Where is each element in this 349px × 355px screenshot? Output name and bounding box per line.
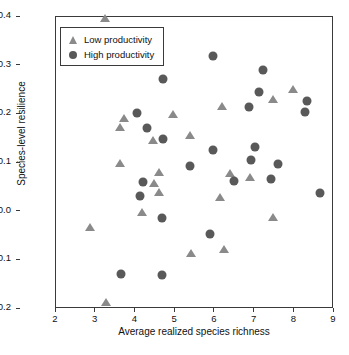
data-point xyxy=(316,189,325,198)
data-point xyxy=(246,155,255,164)
data-point xyxy=(115,159,125,167)
data-point xyxy=(208,51,217,60)
data-point xyxy=(274,159,283,168)
data-point xyxy=(254,87,263,96)
data-point xyxy=(250,142,259,151)
data-point xyxy=(149,179,159,187)
legend-label-high-productivity: High productivity xyxy=(84,49,154,60)
data-point xyxy=(229,176,238,185)
data-point xyxy=(215,193,225,201)
data-point xyxy=(138,178,147,187)
y-axis-label: Species-level resilience xyxy=(16,39,27,229)
data-point xyxy=(154,188,164,196)
data-point xyxy=(219,245,229,253)
data-point xyxy=(288,85,298,93)
data-point xyxy=(303,96,312,105)
data-point xyxy=(209,146,218,155)
scatter-plot-figure: −0.2−0.10.00.10.20.30.4 23456789 Species… xyxy=(0,0,349,355)
data-point xyxy=(185,131,195,139)
data-point xyxy=(217,102,227,110)
data-point xyxy=(154,168,164,176)
data-point xyxy=(115,123,125,131)
data-point xyxy=(116,269,125,278)
data-point xyxy=(158,270,167,279)
data-point xyxy=(186,249,196,257)
data-point xyxy=(135,191,144,200)
data-point xyxy=(132,108,141,117)
data-point xyxy=(119,114,129,122)
data-point xyxy=(185,162,194,171)
data-point xyxy=(206,229,215,238)
data-point xyxy=(100,14,110,22)
circle-marker-icon xyxy=(66,51,80,59)
data-point xyxy=(168,110,178,118)
data-point xyxy=(137,208,147,216)
data-point xyxy=(258,65,267,74)
legend: Low productivity High productivity xyxy=(60,27,164,66)
data-point xyxy=(142,123,151,132)
data-point xyxy=(158,134,167,143)
legend-label-low-productivity: Low productivity xyxy=(84,34,152,45)
data-point xyxy=(159,74,168,83)
data-point xyxy=(301,108,310,117)
data-point xyxy=(245,103,254,112)
data-point xyxy=(148,136,158,144)
data-point xyxy=(268,95,278,103)
legend-item-high-productivity: High productivity xyxy=(66,47,158,62)
triangle-marker-icon xyxy=(66,36,80,44)
legend-item-low-productivity: Low productivity xyxy=(66,32,158,47)
data-point xyxy=(101,298,111,306)
data-point xyxy=(85,223,95,231)
x-axis-label: Average realized species richness xyxy=(55,326,333,337)
data-point xyxy=(267,175,276,184)
data-point xyxy=(268,213,278,221)
data-point xyxy=(245,173,255,181)
data-point xyxy=(158,213,167,222)
